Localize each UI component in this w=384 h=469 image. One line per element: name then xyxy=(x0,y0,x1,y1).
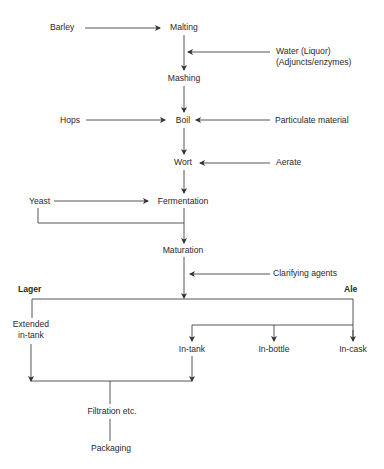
node-in-tank: In-tank xyxy=(179,344,205,355)
flow-connectors xyxy=(0,0,384,469)
node-filtration: Filtration etc. xyxy=(87,406,136,417)
node-extended-line2: in-tank xyxy=(18,330,44,341)
line-lager-ale-bar xyxy=(32,299,353,340)
node-extended-line1: Extended xyxy=(13,319,49,330)
label-ale: Ale xyxy=(344,284,357,295)
node-fermentation: Fermentation xyxy=(158,196,209,207)
node-malting: Malting xyxy=(170,22,198,33)
node-hops: Hops xyxy=(60,115,80,126)
node-aerate: Aerate xyxy=(276,157,301,168)
label-lager: Lager xyxy=(18,284,41,295)
node-wort: Wort xyxy=(174,157,192,168)
node-mashing: Mashing xyxy=(168,73,200,84)
node-boil: Boil xyxy=(176,115,190,126)
node-adjuncts: (Adjuncts/enzymes) xyxy=(276,57,351,68)
node-water: Water (Liquor) xyxy=(276,46,331,57)
node-barley: Barley xyxy=(50,22,74,33)
node-in-cask: In-cask xyxy=(339,344,367,355)
node-maturation: Maturation xyxy=(163,245,204,256)
node-in-bottle: In-bottle xyxy=(258,344,289,355)
node-yeast: Yeast xyxy=(29,196,50,207)
node-particulate: Particulate material xyxy=(275,115,349,126)
node-clarifying: Clarifying agents xyxy=(273,268,337,279)
line-yeast-bracket xyxy=(38,208,184,223)
node-packaging: Packaging xyxy=(91,443,131,454)
